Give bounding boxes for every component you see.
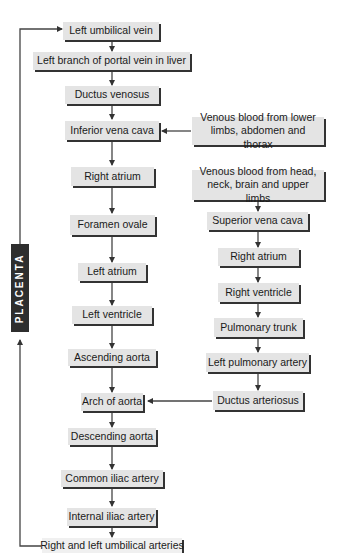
node-venous-blood-lower: Venous blood from lower limbs, abdomen a… [192,117,324,145]
node-common-iliac-artery: Common iliac artery [61,470,163,487]
placenta-text: PLACENTA [15,253,26,323]
node-ductus-arteriosus: Ductus arteriosus [213,391,303,410]
node-ascending-aorta: Ascending aorta [68,349,156,366]
node-right-atrium-2: Right atrium [218,248,299,266]
node-superior-vena-cava: Superior vena cava [207,212,308,230]
placenta-label: PLACENTA [11,244,29,332]
node-right-atrium: Right atrium [71,167,154,186]
node-right-ventricle: Right ventricle [218,283,299,302]
node-descending-aorta: Descending aorta [68,428,156,445]
node-left-atrium: Left atrium [78,263,146,281]
node-left-ventricle: Left ventricle [72,306,152,324]
node-venous-blood-upper: Venous blood from head, neck, brain and … [192,170,324,200]
node-arch-of-aorta: Arch of aorta [81,393,143,411]
node-inferior-vena-cava: Inferior vena cava [65,121,159,140]
node-left-pulmonary-artery: Left pulmonary artery [206,353,309,372]
node-pulmonary-trunk: Pulmonary trunk [214,318,303,337]
node-umbilical-arteries: Right and left umbilical arteries [42,538,182,553]
node-internal-iliac-artery: Internal iliac artery [67,508,156,526]
node-ductus-venosus: Ductus venosus [65,86,159,104]
node-foramen-ovale: Foramen ovale [70,215,155,235]
node-left-umbilical-vein: Left umbilical vein [63,22,159,40]
node-left-branch-portal-vein: Left branch of portal vein in liver [33,52,190,70]
